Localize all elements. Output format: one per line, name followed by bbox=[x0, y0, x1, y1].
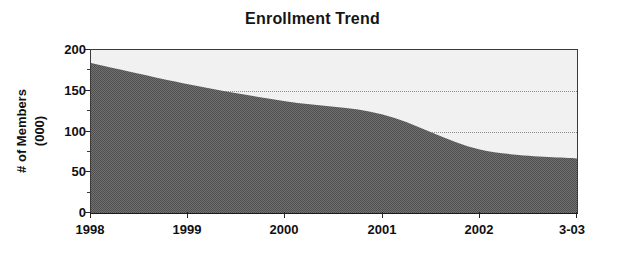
x-tick-label-2002: 2002 bbox=[439, 222, 519, 237]
y-axis-tick-labels: 200 150 100 50 0 bbox=[48, 0, 86, 256]
y-axis-title-line-1: # of Members bbox=[14, 89, 29, 173]
x-tick-mark-2001 bbox=[382, 212, 383, 218]
y-tick-label-0: 0 bbox=[48, 206, 86, 219]
plot-inner bbox=[91, 50, 577, 213]
area-series-enrollment bbox=[91, 50, 577, 213]
y-axis-title-line-2: (000) bbox=[32, 116, 47, 146]
x-tick-mark-2002 bbox=[479, 212, 480, 218]
x-tick-label-1998: 1998 bbox=[50, 222, 130, 237]
x-tick-label-2000: 2000 bbox=[244, 222, 324, 237]
x-tick-label-2001: 2001 bbox=[342, 222, 422, 237]
plot-area bbox=[90, 49, 578, 214]
y-tick-label-150: 150 bbox=[48, 84, 86, 97]
x-tick-mark-3-03 bbox=[576, 212, 577, 218]
chart-title: Enrollment Trend bbox=[0, 10, 625, 28]
x-tick-label-1999: 1999 bbox=[147, 222, 227, 237]
x-tick-mark-1999 bbox=[187, 212, 188, 218]
x-tick-mark-2000 bbox=[284, 212, 285, 218]
y-axis-title: # of Members (000) bbox=[8, 46, 52, 216]
y-tick-label-50: 50 bbox=[48, 165, 86, 178]
y-tick-label-100: 100 bbox=[48, 125, 86, 138]
chart-figure: Enrollment Trend # of Members (000) 200 … bbox=[0, 0, 625, 256]
x-tick-mark-1998 bbox=[90, 212, 91, 218]
y-tick-label-200: 200 bbox=[48, 43, 86, 56]
x-tick-label-3-03: 3-03 bbox=[532, 222, 612, 237]
